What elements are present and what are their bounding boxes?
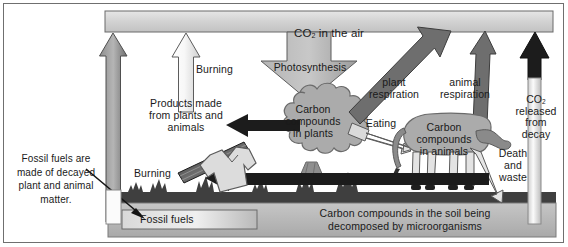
arrow-plant-respiration	[349, 27, 451, 124]
co2-air-box	[105, 11, 553, 32]
carbon-cycle-diagram: CO2 in the air Photosynthesis Carbon com…	[0, 0, 568, 247]
fossil-fuels-box	[122, 210, 257, 229]
arrow-eating	[348, 123, 413, 154]
fossil-burning-column	[106, 190, 121, 224]
diagram-canvas	[0, 0, 568, 247]
arrow-product-burning-to-air	[172, 33, 200, 112]
arrow-animal-respiration	[470, 31, 496, 125]
arrow-co2-from-decay-shaft	[528, 78, 541, 224]
